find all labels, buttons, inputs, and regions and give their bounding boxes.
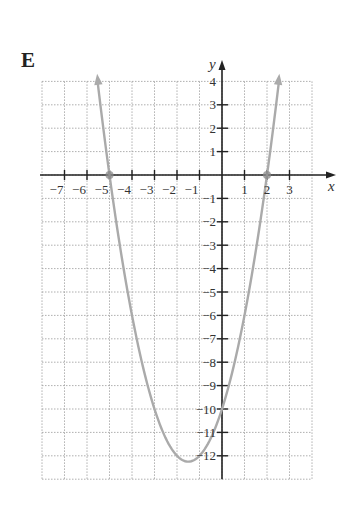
svg-text:y: y: [207, 56, 216, 72]
svg-text:−9: −9: [202, 378, 216, 393]
svg-text:−12: −12: [196, 448, 216, 463]
axes: [40, 60, 336, 479]
svg-text:−11: −11: [196, 425, 216, 440]
svg-text:−8: −8: [202, 355, 216, 370]
svg-text:3: 3: [210, 97, 217, 112]
svg-text:2: 2: [264, 182, 271, 197]
svg-text:−6: −6: [202, 308, 216, 323]
svg-text:−10: −10: [196, 402, 216, 417]
svg-text:−2: −2: [162, 182, 176, 197]
svg-text:x: x: [327, 178, 335, 194]
tick-labels: −7−6−5−4−3−2−11234321−1−2−3−4−5−6−7−8−9−…: [50, 56, 335, 463]
svg-text:−7: −7: [202, 331, 216, 346]
svg-text:−1: −1: [185, 182, 199, 197]
svg-text:1: 1: [210, 144, 217, 159]
parabola-curve: [94, 74, 282, 462]
svg-text:−2: −2: [202, 214, 216, 229]
svg-text:−4: −4: [202, 261, 216, 276]
svg-text:−3: −3: [140, 182, 154, 197]
svg-text:−6: −6: [72, 182, 86, 197]
svg-text:−7: −7: [50, 182, 64, 197]
svg-text:3: 3: [286, 182, 293, 197]
parabola-graph: −7−6−5−4−3−2−11234321−1−2−3−4−5−6−7−8−9−…: [0, 0, 340, 518]
svg-text:−5: −5: [202, 285, 216, 300]
svg-text:4: 4: [210, 74, 217, 89]
svg-text:−3: −3: [202, 238, 216, 253]
svg-text:2: 2: [210, 121, 217, 136]
svg-text:−4: −4: [117, 182, 131, 197]
svg-text:−1: −1: [202, 191, 216, 206]
svg-text:−5: −5: [95, 182, 109, 197]
svg-text:1: 1: [241, 182, 248, 197]
